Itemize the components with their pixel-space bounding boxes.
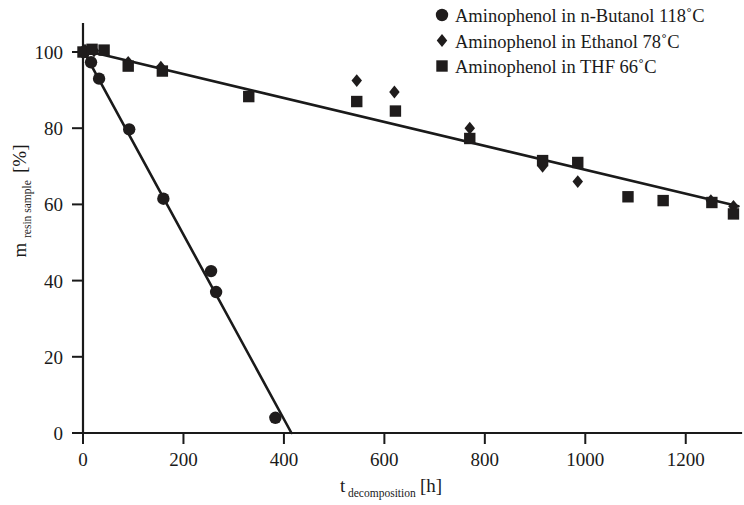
data-point-square xyxy=(86,44,97,55)
chart-figure: 020406080100 020040060080010001200 m res… xyxy=(0,0,744,505)
data-point-square xyxy=(123,60,134,71)
data-point-diamond xyxy=(465,122,475,135)
x-tick-label-1000: 1000 xyxy=(566,449,604,470)
x-axis-title-unit: [h] xyxy=(420,475,442,496)
data-point-circle xyxy=(123,123,135,135)
axes xyxy=(83,24,741,433)
data-point-square xyxy=(351,96,362,107)
chart-legend: Aminophenol in n-Butanol 118˚CAminopheno… xyxy=(436,6,705,77)
x-axis-title-main: t xyxy=(340,475,346,496)
data-point-square xyxy=(622,191,633,202)
decomposition-scatter-plot: 020406080100 020040060080010001200 m res… xyxy=(0,0,744,505)
data-point-square xyxy=(728,208,739,219)
y-axis-title: m resin sample [%] xyxy=(9,145,34,258)
trend-line-series-0 xyxy=(83,50,291,433)
legend-label-2: Aminophenol in THF 66˚C xyxy=(455,57,657,77)
y-tick-label-40: 40 xyxy=(44,271,63,292)
data-point-square xyxy=(243,91,254,102)
y-axis-title-main: m xyxy=(9,242,30,257)
data-point-circle xyxy=(205,265,217,277)
x-axis-title-sub: decomposition xyxy=(348,487,416,500)
y-axis-title-sub: resin sample xyxy=(21,180,34,238)
legend-marker-diamond xyxy=(437,34,447,47)
x-tick-label-200: 200 xyxy=(169,449,198,470)
data-point-diamond xyxy=(573,175,583,188)
data-point-circle xyxy=(85,56,97,68)
trend-lines xyxy=(83,50,738,433)
x-tick-label-600: 600 xyxy=(370,449,399,470)
data-point-square xyxy=(657,195,668,206)
legend-marker-circle xyxy=(436,9,448,21)
data-markers xyxy=(77,44,739,424)
x-tick-label-1200: 1200 xyxy=(667,449,705,470)
data-point-circle xyxy=(93,72,105,84)
data-point-circle xyxy=(269,412,281,424)
x-tick-label-0: 0 xyxy=(78,449,88,470)
x-tick-label-800: 800 xyxy=(471,449,500,470)
y-tick-label-100: 100 xyxy=(35,42,64,63)
y-tick-label-20: 20 xyxy=(44,347,63,368)
data-point-square xyxy=(572,157,583,168)
data-point-square xyxy=(706,197,717,208)
y-axis-title-unit: [%] xyxy=(9,145,30,173)
y-tick-label-80: 80 xyxy=(44,118,63,139)
data-point-square xyxy=(537,155,548,166)
legend-label-1: Aminophenol in Ethanol 78˚C xyxy=(455,32,680,52)
data-point-square xyxy=(464,133,475,144)
data-point-diamond xyxy=(352,74,362,87)
y-tick-label-0: 0 xyxy=(54,423,64,444)
x-axis-title: t decomposition [h] xyxy=(340,475,442,500)
legend-marker-square xyxy=(436,60,447,71)
data-point-square xyxy=(157,65,168,76)
y-tick-label-60: 60 xyxy=(44,194,63,215)
data-point-circle xyxy=(157,192,169,204)
y-axis-ticks: 020406080100 xyxy=(35,42,84,444)
data-point-circle xyxy=(210,286,222,298)
data-point-diamond xyxy=(389,86,399,99)
data-point-square xyxy=(98,44,109,55)
x-tick-label-400: 400 xyxy=(270,449,299,470)
x-axis-ticks: 020040060080010001200 xyxy=(78,433,704,470)
legend-label-0: Aminophenol in n-Butanol 118˚C xyxy=(455,6,705,26)
data-point-square xyxy=(390,105,401,116)
